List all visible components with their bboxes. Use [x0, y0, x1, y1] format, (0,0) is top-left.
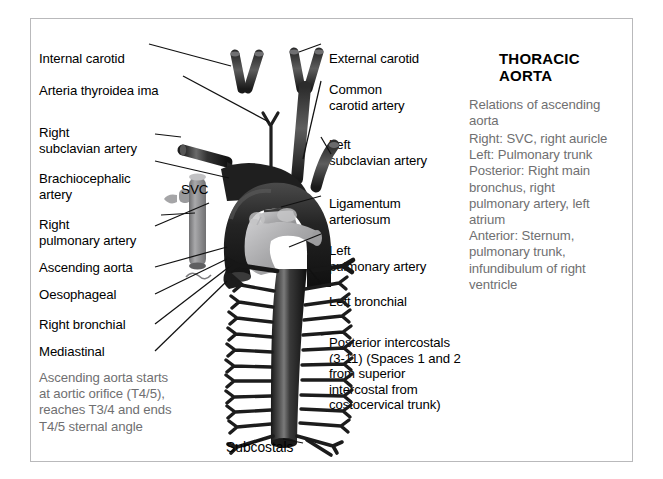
leader-lines [31, 19, 634, 463]
figure-card: Internal carotid Arteria thyroidea ima R… [30, 18, 633, 462]
leader-brachiocephalic [155, 161, 229, 178]
label-subcostals: Subcostals [226, 440, 294, 455]
leader-left-subclavian [321, 137, 331, 154]
leader-common-carotid [303, 81, 321, 159]
leader-svc [161, 213, 195, 215]
leader-posterior-intercostals [321, 332, 343, 335]
label-svc: SVC [181, 182, 209, 197]
leader-left-bronchial [309, 269, 321, 284]
leader-right-subclavian [155, 134, 181, 137]
leader-arteria-thyroidea [183, 76, 269, 122]
leader-ligamentum [281, 196, 321, 207]
leader-external-carotid [299, 44, 321, 52]
leader-internal-carotid [149, 44, 231, 66]
leader-left-pulmonary [289, 234, 321, 247]
